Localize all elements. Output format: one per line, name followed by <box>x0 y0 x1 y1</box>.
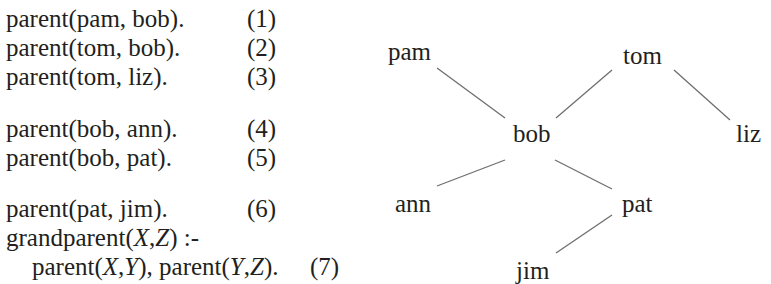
node-tom: tom <box>623 43 662 68</box>
node-pat: pat <box>622 191 653 216</box>
node-ann: ann <box>395 191 431 216</box>
edge-tom-liz <box>674 70 730 120</box>
node-pam: pam <box>388 39 431 64</box>
edge-bob-pat <box>555 160 612 189</box>
edge-pat-jim <box>556 215 612 253</box>
edge-bob-ann <box>437 160 505 186</box>
node-bob: bob <box>513 121 551 146</box>
edge-tom-bob <box>556 70 612 118</box>
node-jim: jim <box>516 258 549 283</box>
edge-pam-bob <box>437 68 505 118</box>
node-liz: liz <box>736 121 761 146</box>
